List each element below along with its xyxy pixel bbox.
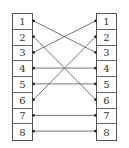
wiring-lines — [0, 0, 129, 148]
connection-dot — [32, 130, 35, 133]
connection-dot — [94, 20, 97, 23]
connection-dot — [94, 114, 97, 117]
connection-dot — [32, 114, 35, 117]
connection-dot — [32, 20, 35, 23]
connection-dot — [94, 130, 97, 133]
connection-dot — [94, 35, 97, 38]
connection-dot — [94, 51, 97, 54]
connection-dot — [32, 67, 35, 70]
connection-dot — [94, 83, 97, 86]
connection-dot — [94, 67, 97, 70]
connection-dot — [32, 51, 35, 54]
connection-dot — [94, 98, 97, 101]
connection-dot — [32, 98, 35, 101]
connection-dot — [32, 83, 35, 86]
connection-dot — [32, 35, 35, 38]
